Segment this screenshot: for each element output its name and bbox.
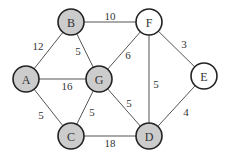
edge-weight-f-d: 5 — [153, 78, 159, 90]
node-label-a: A — [22, 73, 31, 87]
edge-weight-b-f: 10 — [105, 10, 117, 22]
edges-layer — [26, 22, 204, 136]
node-d: D — [136, 123, 162, 149]
node-label-c: C — [67, 130, 75, 144]
edge-weight-c-d: 18 — [105, 137, 117, 149]
edge-weight-a-b: 12 — [33, 40, 44, 52]
node-label-d: D — [145, 130, 154, 144]
edge-weight-f-e: 3 — [181, 38, 187, 50]
edge-weight-e-d: 4 — [183, 106, 189, 118]
node-label-f: F — [146, 16, 153, 30]
edge-weight-g-d: 5 — [126, 97, 132, 109]
edge-weight-g-c: 5 — [89, 106, 95, 118]
node-label-b: B — [67, 16, 75, 30]
graph-diagram: 1216551065553418 ABGCFED — [0, 0, 231, 159]
node-g: G — [86, 66, 112, 92]
edge-weight-g-f: 6 — [125, 49, 131, 61]
node-label-e: E — [200, 70, 207, 84]
node-a: A — [13, 66, 39, 92]
node-b: B — [58, 9, 84, 35]
node-e: E — [191, 63, 217, 89]
edge-weight-a-g: 16 — [62, 80, 74, 92]
edge-weight-a-c: 5 — [38, 109, 44, 121]
node-f: F — [136, 9, 162, 35]
node-c: C — [58, 123, 84, 149]
node-label-g: G — [95, 73, 104, 87]
edge-weight-b-g: 5 — [75, 45, 81, 57]
